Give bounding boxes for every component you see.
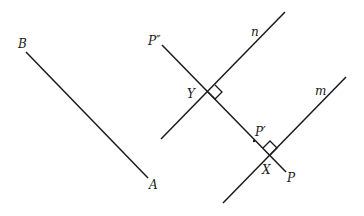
point-p-prime (253, 140, 255, 142)
label-p-double-prime: P″ (147, 34, 161, 48)
right-angle-marker-y (208, 85, 222, 99)
label-m: m (315, 84, 326, 98)
line-n (161, 12, 285, 139)
segment-ba (26, 52, 148, 178)
label-x: X (261, 163, 271, 177)
transversal-line (162, 45, 286, 172)
geometry-diagram: B A P″ n m Y P′ X P (0, 0, 364, 216)
label-n: n (251, 25, 259, 39)
label-p-prime: P′ (254, 125, 266, 139)
right-angle-marker-x (263, 141, 277, 155)
label-b: B (17, 37, 27, 51)
label-a: A (148, 178, 158, 192)
label-p: P (286, 171, 296, 185)
line-m (223, 77, 346, 203)
label-y: Y (187, 87, 196, 101)
